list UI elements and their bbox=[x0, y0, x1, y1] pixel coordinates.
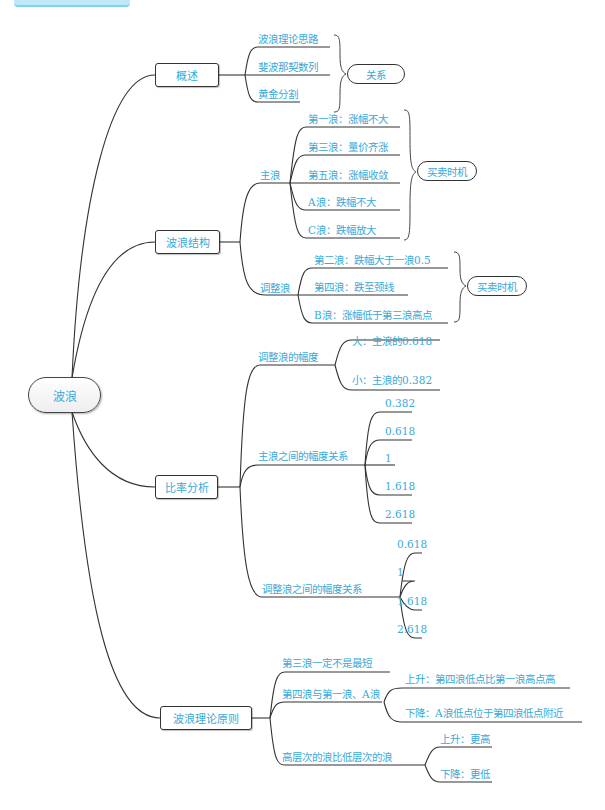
node-wave-4[interactable]: 第四浪：跌至颈线 bbox=[314, 280, 394, 294]
node-wave-c[interactable]: C浪：跌幅放大 bbox=[308, 223, 376, 237]
summary-timing-corrective[interactable]: 买卖时机 bbox=[467, 276, 527, 296]
node-wave-5[interactable]: 第五浪：涨幅收敛 bbox=[308, 168, 388, 182]
node-wave-1[interactable]: 第一浪：涨幅不大 bbox=[308, 112, 388, 126]
root-label: 波浪 bbox=[53, 387, 77, 404]
node-wave-b[interactable]: B浪：涨幅低于第三浪高点 bbox=[314, 308, 432, 322]
node-wave-2[interactable]: 第二浪：跌幅大于一浪0.5 bbox=[314, 253, 431, 267]
node-corr-ratio-0618[interactable]: 0.618 bbox=[397, 537, 427, 551]
node-ratio-analysis-label: 比率分析 bbox=[165, 479, 209, 495]
node-large-0618[interactable]: 大：主浪的0.618 bbox=[352, 334, 432, 348]
summary-timing-corrective-label: 买卖时机 bbox=[477, 279, 517, 294]
node-higher-degree-wave[interactable]: 高层次的浪比低层次的浪 bbox=[282, 750, 392, 764]
summary-timing-main-label: 买卖时机 bbox=[427, 164, 467, 179]
summary-timing-main[interactable]: 买卖时机 bbox=[417, 161, 477, 181]
node-main-wave[interactable]: 主浪 bbox=[260, 168, 280, 182]
summary-relation-label: 关系 bbox=[366, 67, 386, 82]
node-overview-label: 概述 bbox=[176, 67, 198, 83]
node-wave-structure[interactable]: 波浪结构 bbox=[155, 230, 220, 254]
node-wave-structure-label: 波浪结构 bbox=[166, 234, 210, 250]
node-main-amplitude-relation[interactable]: 主浪之间的幅度关系 bbox=[258, 449, 348, 463]
node-corr-ratio-1[interactable]: 1 bbox=[397, 565, 404, 579]
node-ratio-analysis[interactable]: 比率分析 bbox=[155, 475, 218, 499]
node-wave-a[interactable]: A浪：跌幅不大 bbox=[308, 195, 376, 209]
summary-relation[interactable]: 关系 bbox=[347, 64, 405, 84]
node-corr-ratio-1618[interactable]: 1.618 bbox=[397, 594, 427, 608]
node-wave-theory-idea[interactable]: 波浪理论思路 bbox=[258, 32, 318, 46]
node-main-ratio-0382[interactable]: 0.382 bbox=[385, 396, 415, 410]
node-wave4-wave1-a[interactable]: 第四浪与第一浪、A浪 bbox=[282, 687, 380, 701]
node-overview[interactable]: 概述 bbox=[155, 63, 219, 87]
node-corrective-wave[interactable]: 调整浪 bbox=[260, 281, 290, 295]
root-node[interactable]: 波浪 bbox=[28, 377, 101, 413]
node-main-ratio-0618[interactable]: 0.618 bbox=[385, 424, 415, 438]
node-corr-ratio-2618[interactable]: 2.618 bbox=[397, 622, 427, 636]
node-main-ratio-2618[interactable]: 2.618 bbox=[385, 507, 415, 521]
node-corrective-amplitude[interactable]: 调整浪的幅度 bbox=[258, 350, 318, 364]
node-fall-a-low[interactable]: 下降：A浪低点位于第四浪低点附近 bbox=[405, 706, 563, 720]
node-main-ratio-1[interactable]: 1 bbox=[385, 451, 392, 465]
node-small-0382[interactable]: 小：主浪的0.382 bbox=[352, 373, 432, 387]
node-wave-principles-label: 波浪理论原则 bbox=[173, 710, 239, 726]
node-wave3-not-shortest[interactable]: 第三浪一定不是最短 bbox=[282, 656, 372, 670]
node-rise-wave4-low[interactable]: 上升：第四浪低点比第一浪高点高 bbox=[405, 672, 555, 686]
node-corrective-amplitude-relation[interactable]: 调整浪之间的幅度关系 bbox=[262, 582, 362, 596]
node-golden-ratio[interactable]: 黄金分割 bbox=[258, 87, 298, 101]
node-main-ratio-1618[interactable]: 1.618 bbox=[385, 479, 415, 493]
node-fall-lower[interactable]: 下降：更低 bbox=[440, 767, 490, 781]
node-wave-principles[interactable]: 波浪理论原则 bbox=[160, 706, 252, 730]
node-wave-3[interactable]: 第三浪：量价齐涨 bbox=[308, 140, 388, 154]
node-rise-higher[interactable]: 上升：更高 bbox=[440, 732, 490, 746]
node-fibonacci[interactable]: 斐波那契数列 bbox=[258, 60, 318, 74]
